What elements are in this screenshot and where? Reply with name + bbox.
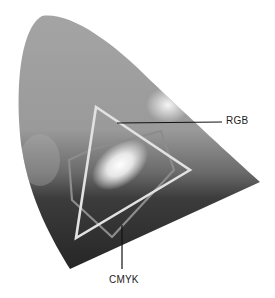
gamut-diagram: RGB CMYK: [0, 0, 275, 298]
gamut-svg: [0, 0, 275, 298]
cmyk-label: CMYK: [109, 274, 139, 285]
rgb-label: RGB: [226, 115, 248, 126]
